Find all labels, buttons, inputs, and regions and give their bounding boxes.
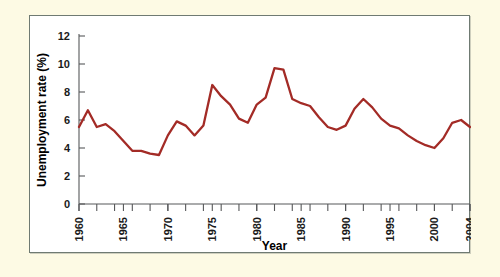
x-tick-label: 1970 bbox=[162, 217, 174, 241]
figure-root: 024681012 196019651970197519801985199019… bbox=[0, 0, 500, 277]
chart-panel: 024681012 196019651970197519801985199019… bbox=[29, 15, 470, 253]
x-tick-label: 1960 bbox=[73, 217, 85, 241]
axes-group bbox=[79, 34, 470, 204]
plot-area: 024681012 196019651970197519801985199019… bbox=[30, 16, 471, 254]
x-tick-label: 1965 bbox=[117, 217, 129, 241]
x-tick-marks bbox=[79, 204, 470, 211]
x-tick-label: 1990 bbox=[340, 217, 352, 241]
y-tick-label: 2 bbox=[64, 170, 70, 182]
unemployment-rate-line bbox=[79, 68, 470, 155]
x-tick-label: 1985 bbox=[295, 217, 307, 241]
x-tick-label: 1995 bbox=[384, 217, 396, 241]
y-tick-label: 0 bbox=[64, 198, 70, 210]
y-tick-label: 10 bbox=[58, 58, 70, 70]
x-axis-title: Year bbox=[262, 239, 288, 253]
x-tick-labels: 1960196519701975198019851990199520002004 bbox=[73, 216, 471, 241]
x-tick-label: 1980 bbox=[251, 217, 263, 241]
y-tick-label: 6 bbox=[64, 114, 70, 126]
line-chart: 024681012 196019651970197519801985199019… bbox=[30, 16, 471, 254]
x-tick-label: 2000 bbox=[428, 217, 440, 241]
y-tick-label: 4 bbox=[64, 142, 71, 154]
y-tick-label: 12 bbox=[58, 30, 70, 42]
y-axis-title: Unemployment rate (%) bbox=[35, 53, 49, 187]
x-tick-label: 1975 bbox=[206, 217, 218, 241]
x-tick-label: 2004 bbox=[464, 216, 471, 241]
y-tick-labels: 024681012 bbox=[58, 30, 71, 210]
y-tick-label: 8 bbox=[64, 86, 70, 98]
